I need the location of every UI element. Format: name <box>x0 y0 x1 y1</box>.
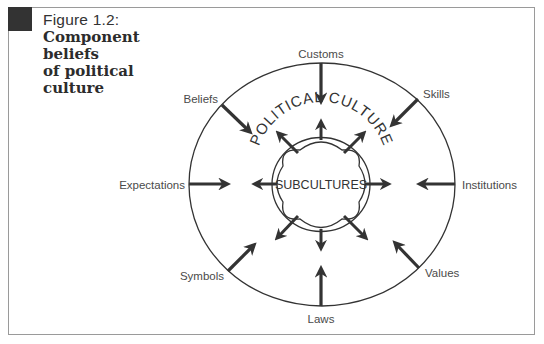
label-symbols: Symbols <box>180 270 224 282</box>
label-institutions: Institutions <box>462 179 517 191</box>
arrow-skills <box>393 99 418 124</box>
arrow-values <box>396 244 419 268</box>
label-values: Values <box>425 267 460 279</box>
label-laws: Laws <box>308 313 335 325</box>
label-skills: Skills <box>423 88 450 100</box>
label-customs: Customs <box>298 48 344 60</box>
subcultures-label: SUBCULTURES <box>275 178 367 192</box>
arrow-beliefs <box>222 105 249 131</box>
label-expectations: Expectations <box>119 179 185 191</box>
label-beliefs: Beliefs <box>183 93 218 105</box>
political-culture-diagram: POLITICAL CULTURE SUBCULTURES Customs Sk… <box>0 0 544 344</box>
arrow-symbols <box>228 246 253 271</box>
